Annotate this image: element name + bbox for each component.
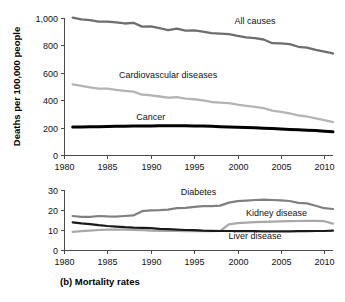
x-tick-label-top-0: 1980	[54, 162, 74, 172]
x-tick-label-bottom-4: 2000	[228, 257, 248, 267]
axis-spines-bottom	[65, 190, 334, 251]
series-label-top-2: Cancer	[136, 112, 165, 122]
y-tick-label-top-2: 400	[43, 96, 58, 106]
y-tick-label-top-5: 1,000	[35, 14, 58, 24]
series-label-top-0: All causes	[234, 16, 276, 26]
y-tick-label-top-4: 800	[43, 41, 58, 51]
axis-spines-top	[65, 18, 334, 156]
x-tick-label-bottom-5: 2005	[271, 257, 291, 267]
chart-canvas: 02004006008001,0001980198519901995200020…	[0, 0, 345, 302]
figure-caption: (b) Mortality rates	[60, 276, 140, 287]
x-tick-label-top-1: 1985	[97, 162, 117, 172]
y-tick-label-bottom-3: 30	[48, 186, 58, 196]
x-tick-label-bottom-3: 1995	[184, 257, 204, 267]
y-tick-label-top-3: 600	[43, 69, 58, 79]
mortality-rates-figure: 02004006008001,0001980198519901995200020…	[0, 0, 345, 302]
x-tick-label-top-4: 2000	[228, 162, 248, 172]
y-tick-label-bottom-2: 20	[48, 206, 58, 216]
series-label-bottom-2: Liver disease	[228, 231, 281, 241]
x-tick-label-bottom-2: 1990	[141, 257, 161, 267]
x-tick-label-bottom-1: 1985	[97, 257, 117, 267]
x-tick-label-top-6: 2010	[314, 162, 334, 172]
y-tick-label-bottom-0: 0	[53, 246, 58, 256]
chart-panel-bottom: 01020301980198519901995200020052010Diabe…	[48, 186, 335, 267]
series-line-top-1	[73, 84, 333, 122]
x-tick-label-top-5: 2005	[271, 162, 291, 172]
x-tick-label-top-3: 1995	[184, 162, 204, 172]
series-label-bottom-1: Kidney disease	[246, 208, 307, 218]
chart-panel-top: 02004006008001,0001980198519901995200020…	[11, 14, 335, 172]
x-tick-label-bottom-0: 1980	[54, 257, 74, 267]
y-tick-label-bottom-1: 10	[48, 226, 58, 236]
y-tick-label-top-0: 0	[53, 151, 58, 161]
series-line-top-0	[73, 18, 333, 54]
x-tick-label-top-2: 1990	[141, 162, 161, 172]
y-axis-title-top: Deaths per 100,000 people	[11, 27, 22, 146]
series-label-top-1: Cardiovascular diseases	[119, 70, 218, 80]
y-tick-label-top-1: 200	[43, 124, 58, 134]
series-label-bottom-0: Diabetes	[181, 187, 217, 197]
series-line-top-2	[73, 126, 333, 132]
x-tick-label-bottom-6: 2010	[314, 257, 334, 267]
